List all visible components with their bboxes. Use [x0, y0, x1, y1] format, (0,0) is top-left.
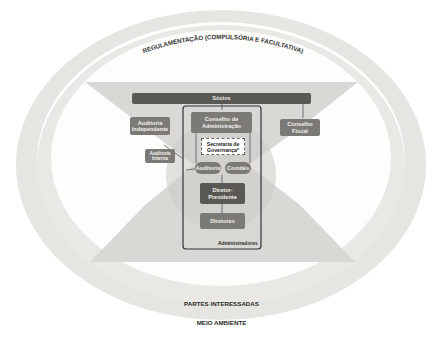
- comite-auditoria-pill: Auditoria: [195, 162, 221, 174]
- auditoria-independente-label: Auditoria Independente: [130, 120, 170, 133]
- diretores-label: Diretores: [210, 218, 235, 224]
- auditoria-interna-label: Auditoria Interna: [145, 151, 175, 162]
- diretor-presidente-label: Diretor-Presidente: [200, 187, 245, 200]
- auditoria-independente-box: Auditoria Independente: [130, 117, 170, 135]
- partes-interessadas-label: PARTES INTERESSADAS: [0, 300, 443, 307]
- diretores-box: Diretores: [200, 213, 245, 229]
- governance-diagram: REGULAMENTAÇÃO (COMPULSÓRIA E FACULTATIV…: [0, 0, 443, 339]
- comites-pill: Comitês: [225, 162, 251, 174]
- meio-ambiente-label: MEIO AMBIENTE: [0, 319, 443, 326]
- comite-auditoria-label: Auditoria: [196, 165, 221, 171]
- secretaria-governanca-label: Secretaria de Governança*: [202, 141, 244, 153]
- conselho-fiscal-label: Conselho Fiscal: [280, 121, 320, 134]
- socios-label: Sócios: [212, 95, 230, 101]
- diretor-presidente-box: Diretor-Presidente: [200, 183, 245, 204]
- auditoria-interna-box: Auditoria Interna: [145, 149, 175, 163]
- secretaria-governanca-box: Secretaria de Governança*: [201, 138, 245, 155]
- socios-box: Sócios: [132, 93, 311, 104]
- comites-label: Comitês: [227, 165, 249, 171]
- conselho-fiscal-box: Conselho Fiscal: [280, 119, 320, 136]
- conselho-administracao-label: Conselho de Administração: [191, 116, 252, 129]
- conselho-administracao-box: Conselho de Administração: [191, 112, 252, 133]
- diagram-background: REGULAMENTAÇÃO (COMPULSÓRIA E FACULTATIV…: [0, 0, 443, 339]
- administradores-label: Administradores: [218, 240, 258, 246]
